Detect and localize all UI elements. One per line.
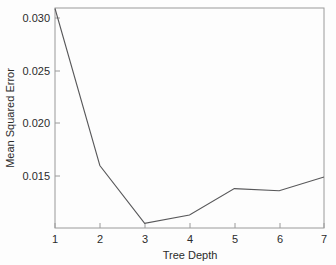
x-axis-ticks (55, 223, 324, 228)
data-series-line (55, 9, 324, 224)
x-tick-label: 1 (52, 233, 58, 245)
x-tick-label: 3 (142, 233, 148, 245)
x-tick-label: 2 (97, 233, 103, 245)
x-axis-tick-labels: 1 2 3 4 5 6 7 (52, 233, 327, 245)
y-tick-label: 0.030 (22, 12, 50, 24)
x-tick-label: 7 (321, 233, 327, 245)
plot-frame (55, 8, 324, 228)
y-tick-label: 0.020 (22, 117, 50, 129)
line-chart: 0.015 0.020 0.025 0.030 1 2 3 4 5 6 7 Tr… (0, 0, 336, 265)
y-tick-label: 0.015 (22, 170, 50, 182)
x-tick-label: 6 (277, 233, 283, 245)
x-tick-label: 4 (187, 233, 193, 245)
chart-figure: 0.015 0.020 0.025 0.030 1 2 3 4 5 6 7 Tr… (0, 0, 336, 265)
x-tick-label: 5 (232, 233, 238, 245)
y-axis-tick-labels: 0.015 0.020 0.025 0.030 (22, 12, 50, 182)
y-axis-ticks (55, 18, 60, 176)
y-axis-title: Mean Squared Error (4, 68, 16, 168)
y-tick-label: 0.025 (22, 65, 50, 77)
x-axis-title: Tree Depth (163, 249, 218, 261)
